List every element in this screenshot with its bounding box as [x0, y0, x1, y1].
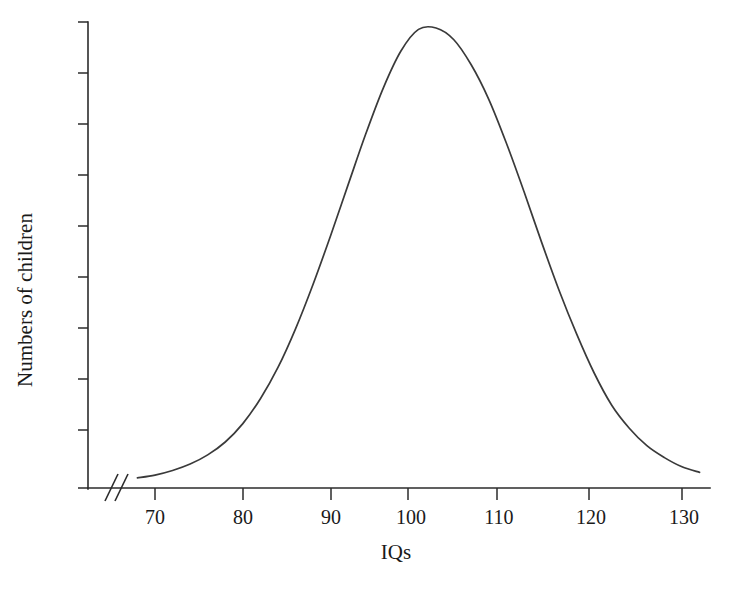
x-axis-title: IQs: [381, 540, 411, 564]
x-tick-label: 110: [484, 506, 513, 528]
x-tick-label: 80: [233, 506, 253, 528]
x-tick-label: 120: [576, 506, 606, 528]
x-tick-label: 90: [321, 506, 341, 528]
chart-background: [0, 0, 736, 592]
x-tick-label: 130: [669, 506, 699, 528]
iq-distribution-chart: 70 80 90 100 110 120 130 IQs Numbers of …: [0, 0, 736, 592]
y-axis-title: Numbers of children: [13, 213, 37, 387]
x-tick-label: 100: [396, 506, 426, 528]
chart-figure: 70 80 90 100 110 120 130 IQs Numbers of …: [0, 0, 736, 592]
x-tick-label: 70: [145, 506, 165, 528]
